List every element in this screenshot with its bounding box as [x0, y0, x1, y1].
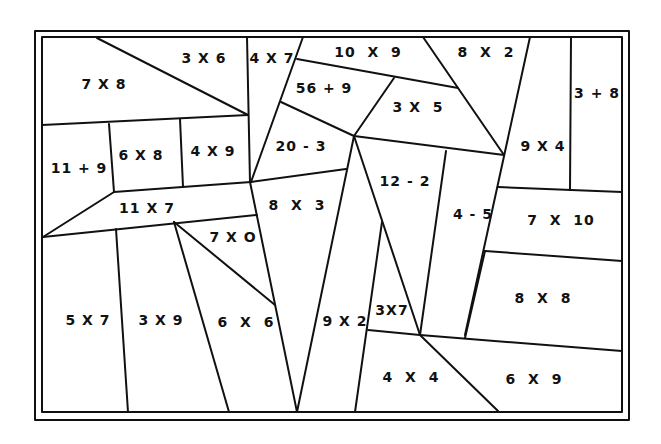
- region-label-8x2[interactable]: 8 X 2: [458, 44, 515, 60]
- region-label-10x9[interactable]: 10 X 9: [334, 44, 402, 60]
- region-label-8x3[interactable]: 8 X 3: [269, 197, 326, 213]
- region-label-56plus9[interactable]: 56 + 9: [296, 80, 353, 96]
- region-label-6x9[interactable]: 6 X 9: [506, 371, 563, 387]
- region-label-3x6[interactable]: 3 X 6: [181, 50, 226, 66]
- region-label-11x7[interactable]: 11 X 7: [119, 200, 175, 216]
- region-label-7x10[interactable]: 7 X 10: [527, 212, 595, 228]
- region-label-5x7[interactable]: 5 X 7: [65, 312, 110, 328]
- region-label-7x0[interactable]: 7 X O: [209, 229, 256, 245]
- region-label-7x8[interactable]: 7 X 8: [81, 76, 126, 92]
- region-label-4x4[interactable]: 4 X 4: [383, 369, 440, 385]
- region-label-3x5[interactable]: 3 X 5: [393, 99, 444, 115]
- region-label-9x4[interactable]: 9 X 4: [520, 138, 565, 154]
- math-coloring-worksheet: 7 X 8 3 X 6 4 X 7 10 X 9 8 X 2 3 + 8 56 …: [0, 0, 661, 444]
- region-label-3x9[interactable]: 3 X 9: [138, 312, 183, 328]
- region-label-6x6[interactable]: 6 X 6: [218, 314, 275, 330]
- region-label-20minus3[interactable]: 20 - 3: [276, 138, 327, 154]
- region-label-6x8[interactable]: 6 X 8: [118, 147, 163, 163]
- region-label-9x2[interactable]: 9 X 2: [322, 313, 367, 329]
- region-label-12minus2[interactable]: 12 - 2: [380, 173, 431, 189]
- region-label-3plus8[interactable]: 3 + 8: [574, 85, 620, 101]
- region-label-4minus5[interactable]: 4 - 5: [453, 206, 493, 222]
- region-label-4x9[interactable]: 4 X 9: [190, 143, 235, 159]
- region-label-4x7[interactable]: 4 X 7: [249, 50, 294, 66]
- region-label-11plus9[interactable]: 11 + 9: [51, 160, 108, 176]
- region-label-8x8[interactable]: 8 X 8: [515, 290, 572, 306]
- region-label-3x7[interactable]: 3X7: [375, 302, 408, 318]
